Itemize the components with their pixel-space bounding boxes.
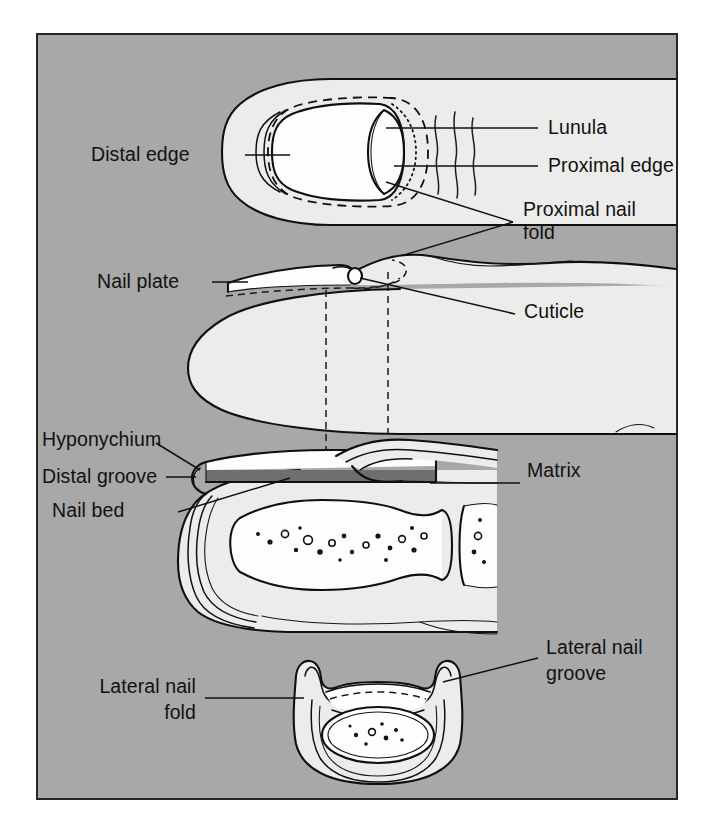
label-lateral-nail-fold-line1: Lateral nail [99,675,196,697]
nail-anatomy-figure: Distal edge Lunula Proximal edge Proxima… [0,0,711,838]
dorsal-view-group: Distal edge Lunula Proximal edge Proxima… [91,79,676,272]
label-proximal-edge: Proximal edge [548,154,674,176]
label-lateral-nail-groove-line1: Lateral nail [546,636,643,658]
label-nail-plate: Nail plate [97,270,179,292]
label-proximal-nail-fold-line1: Proximal nail [523,198,636,220]
label-proximal-nail-fold-line2: fold [523,221,555,243]
lateral-external-view-group: Nail plate Cuticle [97,255,676,434]
label-cuticle: Cuticle [524,300,584,322]
sagittal-section-group: Hyponychium Distal groove Nail bed Matri… [42,428,581,634]
label-lunula: Lunula [548,116,607,138]
label-distal-edge: Distal edge [91,143,190,165]
label-distal-groove: Distal groove [42,465,157,487]
nail-anatomy-diagram: Distal edge Lunula Proximal edge Proxima… [0,0,711,838]
label-nail-bed: Nail bed [52,499,124,521]
label-hyponychium: Hyponychium [42,428,161,450]
label-matrix: Matrix [527,459,581,481]
label-lateral-nail-fold-line2: fold [164,701,196,723]
label-lateral-nail-groove-line2: groove [546,662,606,684]
cross-section-group: Lateral nail groove Lateral nail fold [99,636,642,784]
